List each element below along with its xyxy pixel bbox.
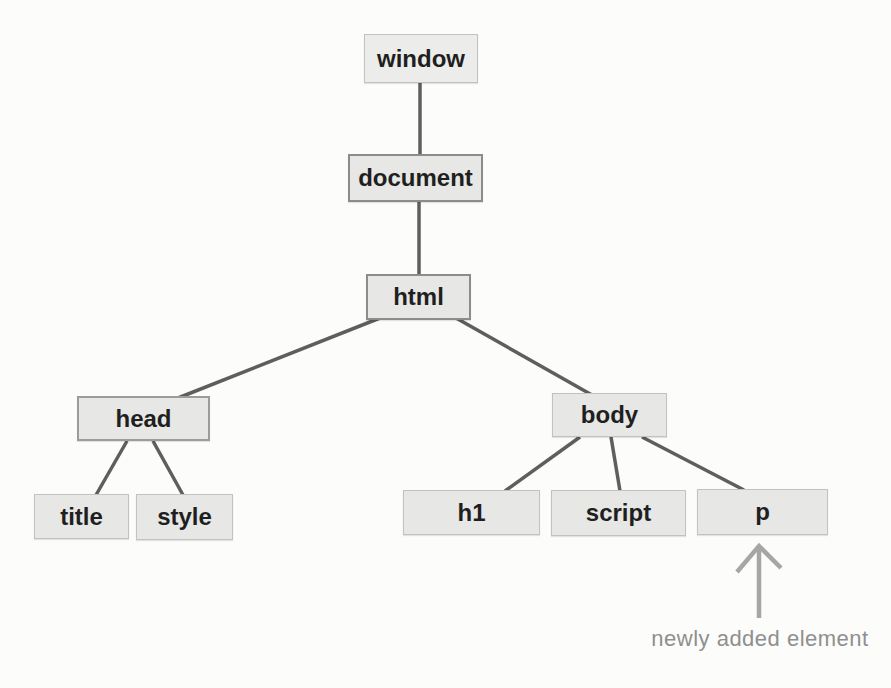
edge-lines <box>0 0 891 688</box>
node-head: head <box>77 396 210 441</box>
node-document: document <box>348 154 483 202</box>
up-arrow-icon <box>737 546 781 618</box>
edge-body-h1 <box>505 437 580 491</box>
edge-head-title <box>96 441 127 495</box>
edge-html-head <box>178 318 380 398</box>
node-style-label: style <box>157 503 212 531</box>
node-script: script <box>551 490 686 536</box>
node-html: html <box>366 274 471 320</box>
node-title-label: title <box>60 503 103 531</box>
node-script-label: script <box>586 499 651 527</box>
node-html-label: html <box>393 283 444 311</box>
edge-body-script <box>611 437 620 491</box>
dom-tree-diagram: window document html head body title sty… <box>0 0 891 688</box>
node-title: title <box>34 494 129 539</box>
node-body-label: body <box>581 401 638 429</box>
annotation-newly-added-element: newly added element <box>630 626 890 652</box>
node-style: style <box>136 494 233 540</box>
node-window-label: window <box>377 45 465 73</box>
node-h1-label: h1 <box>457 499 485 527</box>
node-h1: h1 <box>403 490 540 535</box>
node-p-label: p <box>755 498 770 526</box>
edge-body-p <box>642 437 744 490</box>
node-p: p <box>697 489 828 535</box>
node-document-label: document <box>358 164 473 192</box>
node-window: window <box>364 34 478 83</box>
node-body: body <box>552 393 667 437</box>
edge-head-style <box>153 441 183 495</box>
node-head-label: head <box>115 405 171 433</box>
edge-html-body <box>456 318 592 395</box>
